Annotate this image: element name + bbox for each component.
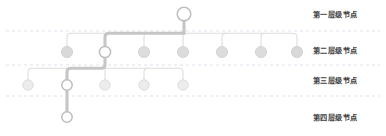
node-group-level-3	[23, 80, 188, 90]
node-n3-c[interactable]	[100, 80, 110, 90]
level-label-1: 第一层级节点	[313, 11, 358, 18]
level-label-3: 第三层级节点	[313, 77, 358, 84]
node-n3-e[interactable]	[178, 80, 188, 90]
highlight-path	[67, 21, 184, 112]
level-label-4: 第四层级节点	[313, 114, 358, 121]
node-n2-g[interactable]	[291, 46, 302, 57]
link-n2b-to-n3-d	[144, 68, 148, 80]
link-bus-right	[184, 33, 297, 47]
node-n3-a[interactable]	[23, 80, 33, 90]
node-n3-d[interactable]	[139, 80, 149, 90]
node-n2-f[interactable]	[255, 46, 266, 57]
hierarchy-diagram: 第一层级节点 第二层级节点 第三层级节点 第四层级节点	[0, 0, 386, 136]
level-label-2: 第二层级节点	[313, 47, 358, 54]
link-bus3-left	[28, 68, 67, 80]
links-level2-plain	[67, 33, 297, 47]
node-n2-e[interactable]	[216, 46, 227, 57]
link-root-to-n2-c	[144, 33, 148, 47]
link-root-to-n2-f	[261, 33, 265, 47]
node-group-level-1	[177, 7, 191, 21]
node-n2-c[interactable]	[138, 46, 149, 57]
links-level3-plain	[28, 68, 183, 80]
node-n4-a[interactable]	[62, 112, 72, 122]
node-n2-a[interactable]	[61, 46, 72, 57]
node-group-level-2	[61, 46, 302, 57]
node-n2-b[interactable]	[99, 46, 110, 57]
node-n2-d[interactable]	[177, 46, 188, 57]
node-n3-b[interactable]	[62, 80, 72, 90]
node-n1-root[interactable]	[177, 7, 191, 21]
link-root-to-n2-e	[222, 33, 226, 47]
node-group-level-4	[62, 112, 72, 122]
link-root-to-n2-a	[67, 33, 105, 47]
link-n2b-down	[67, 58, 105, 80]
